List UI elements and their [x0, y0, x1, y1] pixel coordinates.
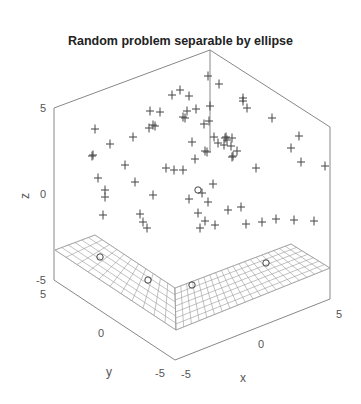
- plus-marker: [287, 144, 295, 153]
- plus-marker: [272, 215, 280, 224]
- plus-marker: [106, 140, 114, 149]
- plus-marker: [211, 221, 219, 230]
- plus-marker: [176, 86, 184, 95]
- plus-marker: [229, 152, 237, 161]
- plus-marker: [139, 218, 147, 227]
- plus-marker: [149, 191, 157, 200]
- plus-marker: [99, 211, 107, 220]
- y-tick-5: 5: [40, 288, 46, 300]
- z-tick-neg5: -5: [36, 274, 46, 286]
- plus-marker: [321, 162, 329, 171]
- plus-marker: [206, 102, 214, 111]
- z-tick-0: 0: [40, 188, 46, 200]
- plus-marker: [170, 166, 178, 175]
- plus-marker: [192, 105, 200, 114]
- plus-marker: [131, 178, 139, 187]
- x-tick-neg5: -5: [181, 368, 191, 380]
- plus-marker: [204, 198, 212, 207]
- plus-marker: [88, 152, 96, 161]
- plus-marker: [89, 151, 97, 160]
- y-axis-label: y: [106, 365, 112, 379]
- plus-marker: [91, 125, 99, 134]
- plus-marker: [209, 180, 217, 189]
- plus-marker: [258, 218, 266, 227]
- plus-marker: [201, 217, 209, 226]
- plus-marker: [252, 164, 260, 173]
- plus-marker: [151, 122, 159, 131]
- plus-marker: [221, 134, 229, 143]
- plus-marker: [210, 133, 218, 142]
- plus-marker: [185, 195, 193, 204]
- y-tick-neg5: -5: [155, 367, 165, 379]
- x-tick-0: 0: [258, 338, 264, 350]
- plus-marker: [181, 114, 189, 123]
- plus-marker: [94, 174, 102, 183]
- plot-3d: 5 0 -5 z 5 0 -5 y -5 0 5 x: [0, 0, 361, 404]
- plus-marker: [179, 166, 187, 175]
- plus-marker: [168, 91, 176, 100]
- plus-marker: [179, 113, 187, 122]
- plus-marker: [146, 107, 154, 116]
- plus-marker: [243, 104, 251, 113]
- plus-marker: [290, 216, 298, 225]
- plus-marker: [101, 193, 109, 202]
- plus-marker: [185, 92, 193, 101]
- plus-marker: [136, 210, 144, 219]
- x-axis-label: x: [240, 371, 246, 385]
- top-edges: [54, 50, 330, 127]
- plus-marker: [196, 224, 204, 233]
- z-tick-5: 5: [40, 102, 46, 114]
- plus-marker: [194, 209, 202, 218]
- plus-marker: [201, 147, 209, 156]
- plus-marker: [204, 72, 212, 81]
- plus-marker: [242, 220, 250, 229]
- plus-marker: [215, 80, 223, 89]
- x-tick-5: 5: [336, 308, 342, 320]
- plus-marker: [295, 132, 303, 141]
- plus-marker: [228, 153, 236, 162]
- plus-marker: [310, 217, 318, 226]
- z-axis-label: z: [18, 193, 32, 199]
- plus-marker: [162, 164, 170, 173]
- plus-marker: [121, 161, 129, 170]
- circle-marker: [195, 187, 201, 193]
- plus-marker: [297, 158, 305, 167]
- plus-marker: [237, 203, 245, 212]
- plus-marker: [156, 108, 164, 117]
- plus-marker: [268, 114, 276, 123]
- plus-marker: [228, 134, 236, 143]
- plus-marker: [227, 142, 235, 151]
- plus-marker: [188, 138, 196, 147]
- plus-marker: [183, 107, 191, 116]
- plus-marker: [129, 133, 137, 142]
- plus-marker: [191, 155, 199, 164]
- plus-marker: [214, 139, 222, 148]
- plus-marker: [143, 224, 151, 233]
- y-tick-0: 0: [98, 327, 104, 339]
- plus-marker: [233, 147, 241, 156]
- plus-marker: [224, 206, 232, 215]
